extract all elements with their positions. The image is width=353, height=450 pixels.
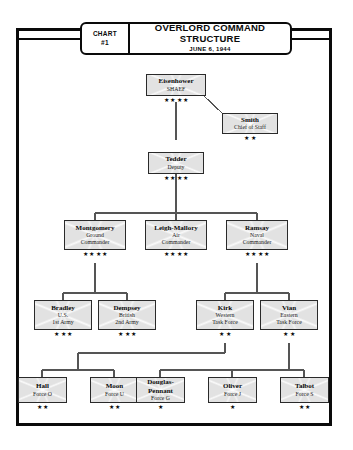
node-smith-name: Smith [241,116,259,124]
node-douglas-pennant-name: Douglas- Pennant [147,378,173,395]
node-talbot-sub: Force S [296,391,314,398]
node-dempsey[interactable]: Dempsey British 2nd Army [98,300,156,330]
node-montgomery-name: Montgomery [76,224,115,232]
rank-stars-oliver: ★ [208,404,257,410]
node-ramsay-sub1: Naval [250,232,264,239]
node-dempsey-sub2: 2nd Army [115,319,138,326]
chart-label-word: CHART [93,30,117,38]
rank-stars-vian: ★ ★ [260,331,318,337]
chart-date: JUNE 6, 1944 [189,46,230,54]
rank-stars-kirk: ★ ★ [196,331,254,337]
node-leigh-mallory-name: Leigh-Mallory [154,224,198,232]
chart-label-number: #1 [101,39,109,47]
rank-stars-douglas-pennant: ★ [136,404,185,410]
rank-stars-bradley: ★ ★ ★ [34,331,92,337]
node-vian[interactable]: Vian Eastern Task Force [260,300,318,330]
node-leigh-mallory-sub2: Commander [162,239,191,246]
node-smith-sub: Chief of Staff [234,124,266,131]
node-moon-sub: Force U [105,391,124,398]
node-bradley-name: Bradley [51,304,75,312]
node-moon-name: Moon [106,382,124,390]
node-oliver[interactable]: Oliver Force J [208,377,257,403]
node-eisenhower-name: Eisenhower [159,77,194,85]
node-montgomery-sub2: Commander [81,239,110,246]
node-ramsay-name: Ramsay [245,224,269,232]
rank-stars-smith: ★ ★ [222,135,278,141]
chart-canvas: Eisenhower SHAEF ★ ★ ★ ★ Smith Chief of … [16,28,332,426]
rank-stars-talbot: ★ ★ [280,404,329,410]
rank-stars-eisenhower: ★ ★ ★ ★ [146,97,206,103]
node-talbot-name: Talbot [295,382,314,390]
rank-stars-montgomery: ★ ★ ★ ★ [64,251,126,257]
node-ramsay[interactable]: Ramsay Naval Commander [226,220,288,250]
node-leigh-mallory-sub1: Air [172,232,180,239]
node-eisenhower[interactable]: Eisenhower SHAEF [146,74,206,96]
chart-title-box: CHART #1 OVERLORD COMMAND STRUCTURE JUNE… [80,22,292,55]
node-kirk-name: Kirk [218,304,232,312]
node-hall-name: Hall [36,382,49,390]
overlord-command-chart: CHART #1 OVERLORD COMMAND STRUCTURE JUNE… [0,0,353,450]
title-line-2: STRUCTURE [180,34,240,45]
node-montgomery[interactable]: Montgomery Ground Commander [64,220,126,250]
node-tedder-sub: Deputy [167,164,184,171]
node-ramsay-sub2: Commander [243,239,272,246]
node-leigh-mallory[interactable]: Leigh-Mallory Air Commander [145,220,207,250]
rank-stars-moon: ★ ★ [90,404,139,410]
node-bradley-sub2: 1st Army [52,319,73,326]
node-vian-sub1: Eastern [280,312,297,319]
chart-title-text: OVERLORD COMMAND STRUCTURE JUNE 6, 1944 [130,24,290,53]
node-tedder[interactable]: Tedder Deputy [148,152,204,174]
node-eisenhower-sub: SHAEF [167,86,185,93]
node-kirk-sub2: Task Force [212,319,238,326]
rank-stars-leigh-mallory: ★ ★ ★ ★ [145,251,207,257]
node-hall-sub: Force O [33,391,52,398]
rank-stars-dempsey: ★ ★ ★ [98,331,156,337]
node-kirk[interactable]: Kirk Western Task Force [196,300,254,330]
node-dempsey-sub1: British [119,312,135,319]
node-douglas-pennant[interactable]: Douglas- Pennant Force G [136,377,185,403]
node-oliver-name: Oliver [223,382,242,390]
node-smith[interactable]: Smith Chief of Staff [222,113,278,134]
node-tedder-name: Tedder [165,155,186,163]
rank-stars-hall: ★ ★ [18,404,67,410]
rank-stars-ramsay: ★ ★ ★ ★ [226,251,288,257]
node-douglas-pennant-sub: Force G [151,395,170,402]
node-kirk-sub1: Western [216,312,235,319]
node-vian-sub2: Task Force [276,319,302,326]
node-oliver-sub: Force J [224,391,241,398]
node-hall[interactable]: Hall Force O [18,377,67,403]
node-montgomery-sub1: Ground [86,232,104,239]
node-bradley[interactable]: Bradley U.S. 1st Army [34,300,92,330]
node-moon[interactable]: Moon Force U [90,377,139,403]
node-bradley-sub1: U.S. [58,312,68,319]
chart-number-label: CHART #1 [82,24,130,53]
node-dempsey-name: Dempsey [113,304,140,312]
node-vian-name: Vian [282,304,296,312]
node-talbot[interactable]: Talbot Force S [280,377,329,403]
rank-stars-tedder: ★ ★ ★ ★ [148,175,204,181]
